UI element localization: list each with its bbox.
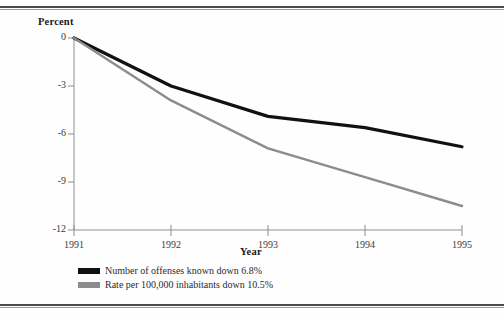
gray-line-swatch (78, 282, 100, 288)
y-tick-label-3: -9 (40, 175, 66, 186)
y-tick-label-4: -12 (40, 223, 66, 234)
legend-item-1: Rate per 100,000 inhabitants down 10.5% (78, 279, 273, 291)
x-tick-label-2: 1993 (245, 239, 291, 250)
x-tick-label-1: 1992 (148, 239, 194, 250)
chart-legend: Number of offenses known down 6.8%Rate p… (78, 265, 273, 291)
x-tick-label-3: 1994 (342, 239, 388, 250)
bottom-divider-rule (0, 304, 504, 306)
y-tick-label-2: -6 (40, 127, 66, 138)
y-tick-label-0: 0 (40, 31, 66, 42)
legend-label-0: Number of offenses known down 6.8% (105, 265, 262, 277)
axes-group (68, 38, 462, 236)
crime-trend-figure: Percent Year 0-3-6-9-12 1991199219931994… (0, 0, 504, 316)
x-tick-label-4: 1995 (439, 239, 485, 250)
y-axis-title: Percent (38, 16, 74, 27)
series-group (74, 38, 462, 206)
series-line-0 (74, 38, 462, 147)
y-tick-label-1: -3 (40, 79, 66, 90)
bottom-divider-hairline (0, 307, 504, 308)
legend-label-1: Rate per 100,000 inhabitants down 10.5% (105, 279, 273, 291)
legend-item-0: Number of offenses known down 6.8% (78, 265, 273, 277)
black-line-swatch (78, 268, 100, 274)
x-tick-label-0: 1991 (51, 239, 97, 250)
series-line-1 (74, 38, 462, 206)
